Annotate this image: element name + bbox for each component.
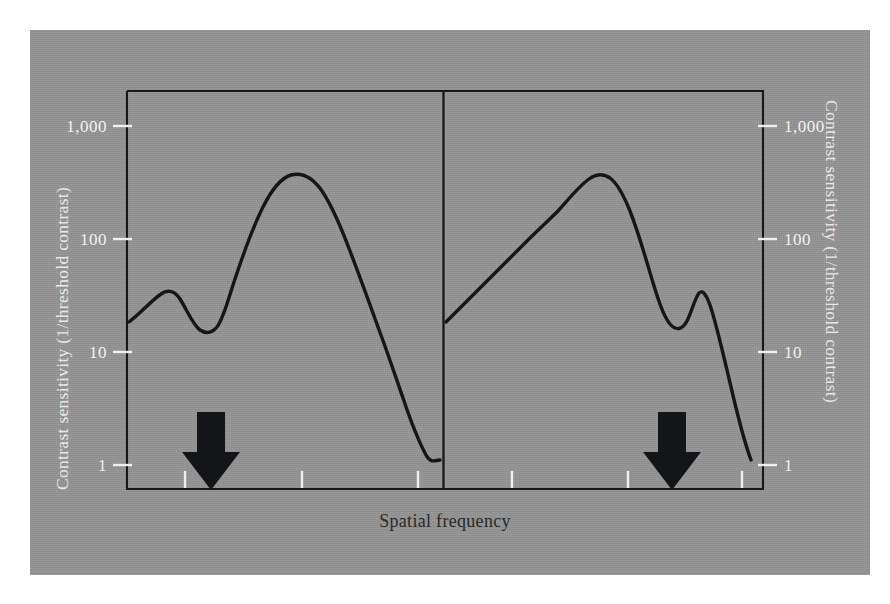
y-label-left-100: 100	[80, 230, 107, 249]
y-axis-right-ticks	[758, 126, 777, 465]
left-arrow-annotation	[182, 412, 240, 490]
down-arrow-icon-left	[182, 412, 240, 490]
csf-plot: 1,000 100 10 1 1,000 100 10 1	[0, 0, 890, 604]
figure-root: 1,000 100 10 1 1,000 100 10 1	[0, 0, 890, 604]
down-arrow-icon-right	[643, 412, 701, 490]
y-axis-title-left: Contrast sensitivity (1/threshold contra…	[52, 187, 72, 490]
x-axis-title: Spatial frequency	[379, 511, 511, 531]
y-axis-title-right: Contrast sensitivity (1/threshold contra…	[822, 100, 842, 403]
y-label-right-10: 10	[784, 343, 802, 362]
y-label-left-10: 10	[89, 343, 107, 362]
y-label-right-1: 1	[784, 456, 793, 475]
y-label-left-1000: 1,000	[66, 117, 107, 136]
y-label-right-100: 100	[784, 230, 811, 249]
y-label-right-1000: 1,000	[784, 117, 825, 136]
x-axis-ticks	[185, 471, 742, 488]
y-label-left-1: 1	[98, 456, 107, 475]
contrast-sensitivity-curve-left	[129, 174, 440, 461]
y-axis-left-ticks	[113, 126, 132, 465]
contrast-sensitivity-curve-right	[446, 175, 751, 460]
right-arrow-annotation	[643, 412, 701, 490]
